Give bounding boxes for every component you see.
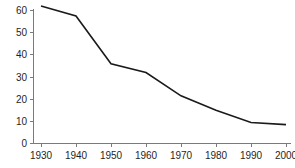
y-axis-tick-labels: 60 50 40 30 20 10 0 [16,5,28,149]
y-axis: 60 50 40 30 20 10 0 [16,5,34,149]
x-axis: 1930 1940 1950 1960 1970 1980 1990 2000 [30,144,295,162]
line-chart: 60 50 40 30 20 10 0 1930 [0,0,295,168]
y-tick-label-50: 50 [16,27,28,38]
x-tick-label-1960: 1960 [135,150,158,161]
x-tick-label-1940: 1940 [65,150,88,161]
x-tick-label-1990: 1990 [240,150,263,161]
y-tick-label-60: 60 [16,5,28,16]
chart-plot-area: 60 50 40 30 20 10 0 1930 [0,0,295,168]
series-line-1 [41,6,286,125]
x-tick-label-2000: 2000 [275,150,295,161]
y-tick-label-20: 20 [16,94,28,105]
y-tick-label-40: 40 [16,49,28,60]
x-axis-ticks [41,144,286,148]
data-series-group [41,6,286,125]
x-tick-label-1970: 1970 [170,150,193,161]
x-tick-label-1950: 1950 [100,150,123,161]
y-tick-label-30: 30 [16,72,28,83]
x-tick-label-1980: 1980 [205,150,228,161]
y-tick-label-0: 0 [21,138,27,149]
x-axis-tick-labels: 1930 1940 1950 1960 1970 1980 1990 2000 [30,150,295,161]
y-tick-label-10: 10 [16,116,28,127]
y-axis-ticks [30,11,34,144]
x-tick-label-1930: 1930 [30,150,53,161]
